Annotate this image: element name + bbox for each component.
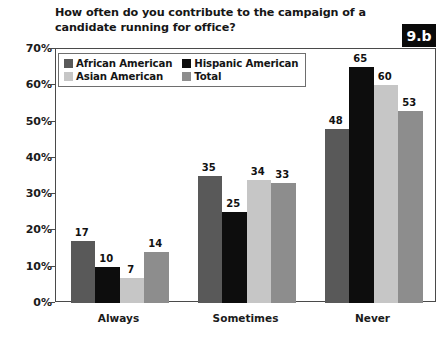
bars-layer	[56, 49, 437, 303]
bar	[222, 212, 247, 303]
figure-container: How often do you contribute to the campa…	[0, 0, 444, 346]
bar	[95, 267, 120, 303]
x-axis-tick-label: Never	[355, 312, 390, 324]
x-axis-tick-label: Always	[98, 312, 139, 324]
y-axis-tick-mark	[50, 302, 55, 303]
legend-item: Total	[182, 71, 298, 82]
legend-label: African American	[76, 58, 172, 69]
legend-label: Total	[194, 71, 221, 82]
bar	[247, 180, 272, 303]
y-axis-tick-label: 70%	[12, 42, 52, 55]
y-axis-tick-label: 60%	[12, 78, 52, 91]
legend-item: Hispanic American	[182, 58, 298, 69]
legend-swatch-icon	[182, 72, 191, 81]
y-axis-tick-label: 20%	[12, 223, 52, 236]
y-axis-tick-label: 30%	[12, 187, 52, 200]
legend-label: Hispanic American	[194, 58, 298, 69]
y-axis-tick-label: 50%	[12, 114, 52, 127]
legend-label: Asian American	[76, 71, 163, 82]
y-axis-tick-label: 40%	[12, 150, 52, 163]
bar	[398, 111, 423, 303]
x-axis-tick-label: Sometimes	[213, 312, 279, 324]
legend-item: Asian American	[64, 71, 172, 82]
legend-swatch-icon	[182, 59, 191, 68]
bar	[198, 176, 223, 303]
page-title: How often do you contribute to the campa…	[55, 6, 400, 35]
legend-item: African American	[64, 58, 172, 69]
legend-swatch-icon	[64, 59, 73, 68]
bar	[349, 67, 374, 303]
legend-swatch-icon	[64, 72, 73, 81]
bar	[325, 129, 350, 303]
bar	[71, 241, 96, 303]
figure-number-badge: 9.b	[402, 24, 436, 47]
bar	[271, 183, 296, 303]
bar	[144, 252, 169, 303]
bar	[374, 85, 399, 303]
chart-legend: African AmericanHispanic AmericanAsian A…	[58, 53, 306, 87]
y-axis-tick-label: 10%	[12, 259, 52, 272]
y-axis-tick-label: 0%	[12, 296, 52, 309]
bar	[120, 278, 145, 303]
